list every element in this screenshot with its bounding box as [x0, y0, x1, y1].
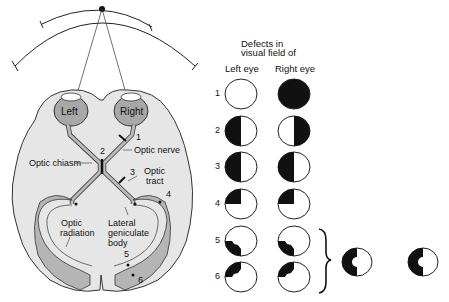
lesion-6-label: 6 — [138, 275, 143, 285]
field-6-right — [278, 262, 310, 292]
optic-radiation-label-2: radiation — [60, 229, 95, 238]
col-right-eye: Right eye — [275, 64, 315, 73]
lgb-label-2: geniculate — [108, 229, 149, 238]
visual-field-arc-outer — [15, 23, 195, 66]
col-left-eye: Left eye — [225, 64, 259, 73]
field-1-right — [278, 79, 310, 109]
visual-pathway-diagram — [0, 0, 449, 302]
row-4-number: 4 — [215, 198, 220, 208]
row-1-number: 1 — [215, 88, 220, 98]
optic-radiation-label-1: Optic — [61, 219, 82, 228]
lesion-3-label: 3 — [130, 167, 135, 177]
brace — [319, 229, 331, 293]
optic-chiasm-label: Optic chiasm — [29, 159, 81, 168]
field-2-left — [225, 116, 257, 146]
field-3-left — [225, 152, 257, 182]
row-2-number: 2 — [215, 125, 220, 135]
lesion-4-label: 4 — [166, 189, 171, 199]
right-eye-label: Right — [120, 107, 143, 116]
lgb-label-3: body — [108, 239, 128, 248]
lesion-2-label: 2 — [100, 146, 105, 156]
row-3-number: 3 — [215, 161, 220, 171]
row-6-number: 6 — [215, 271, 220, 281]
field-combined-right — [408, 248, 438, 276]
field-4-left — [225, 189, 257, 219]
optic-tract-label-1: Optic — [144, 167, 165, 176]
field-6-left — [225, 262, 257, 292]
optic-tract-label-2: tract — [146, 177, 164, 186]
optic-nerve-label: Optic nerve — [134, 146, 180, 155]
lesion-1-label: 1 — [136, 132, 141, 142]
lesion-5-label: 5 — [124, 249, 129, 259]
defects-header-line2: visual field of — [241, 48, 296, 57]
field-4-right — [278, 189, 310, 219]
field-1-left — [225, 79, 257, 109]
field-5-left — [225, 226, 257, 256]
visual-field-arc-inner — [42, 10, 152, 27]
left-eye-label: Left — [61, 107, 78, 116]
row-5-number: 5 — [215, 235, 220, 245]
lgb-label-1: Lateral — [108, 219, 136, 228]
field-combined-left — [342, 248, 372, 276]
field-5-right — [278, 226, 310, 256]
field-3-right — [278, 152, 310, 182]
field-2-right — [278, 116, 310, 146]
